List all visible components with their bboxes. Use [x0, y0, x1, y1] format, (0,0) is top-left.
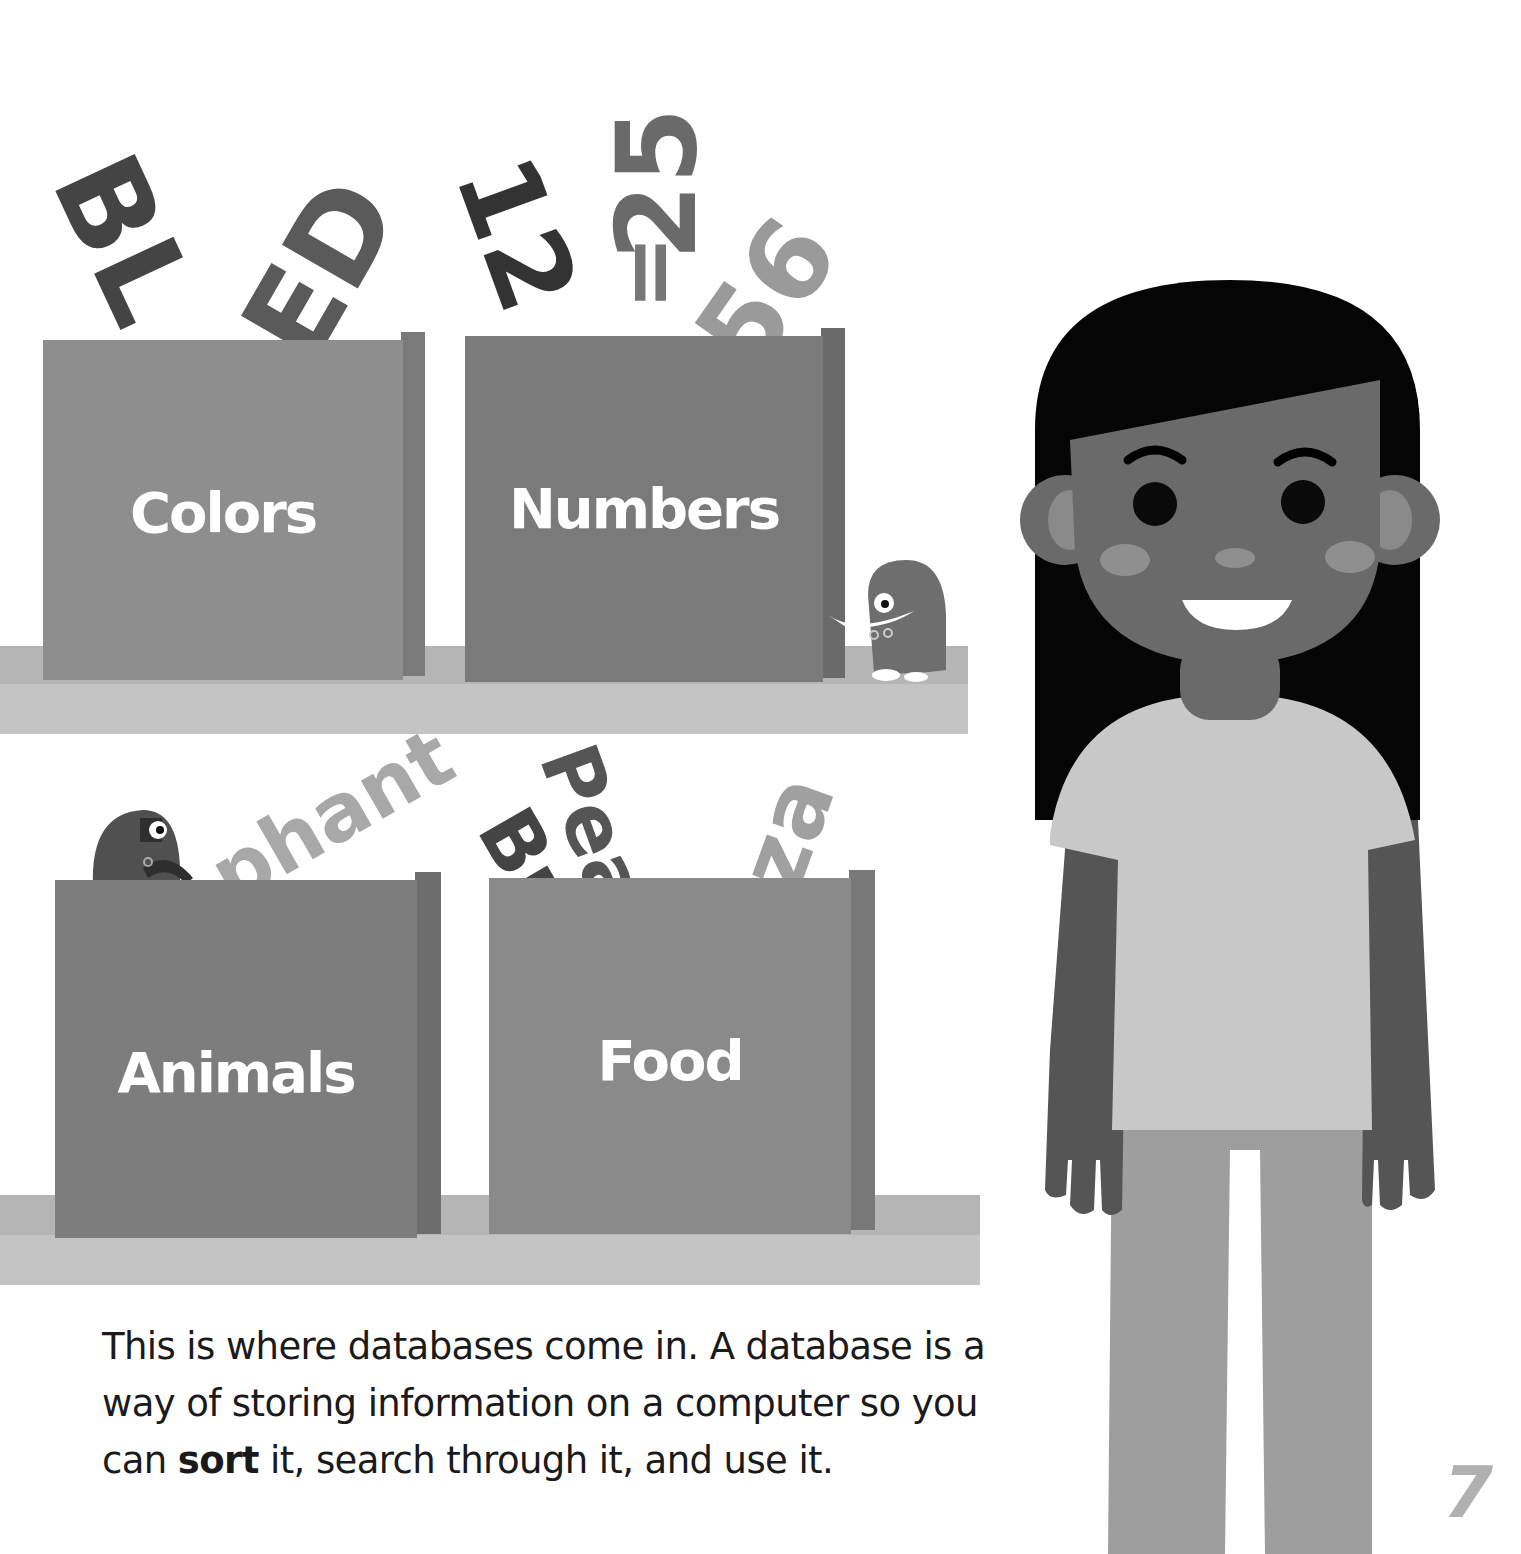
box-label-numbers: Numbers [465, 476, 823, 541]
bottom-shelf-front [0, 1235, 980, 1285]
caption-text: This is where databases come in. A datab… [102, 1318, 1042, 1489]
box-animals: Animals [55, 880, 441, 1238]
box-side [849, 870, 875, 1230]
caption-bold-word: sort [178, 1439, 259, 1482]
caption-part2: it, search through it, and use it. [259, 1439, 833, 1482]
box-label-food: Food [489, 1028, 851, 1093]
box-label-colors: Colors [43, 480, 403, 545]
box-food: Food [489, 878, 875, 1234]
box-side [401, 332, 425, 676]
flying-text-12: 12 [430, 140, 603, 328]
box-side [415, 872, 441, 1234]
box-colors: Colors [43, 340, 425, 680]
box-label-animals: Animals [55, 1040, 417, 1105]
peeking-monster-icon [88, 808, 218, 888]
top-shelf-front [0, 684, 968, 734]
flying-text-bl: BL [25, 134, 222, 345]
page-number: 7 [1443, 1450, 1493, 1534]
monster-icon [826, 555, 956, 685]
girl-character-icon [1010, 280, 1450, 1554]
box-numbers: Numbers [465, 336, 845, 682]
